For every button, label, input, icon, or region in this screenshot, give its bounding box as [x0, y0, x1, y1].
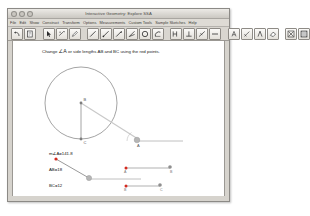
select-arrow-tool[interactable]: [43, 28, 55, 40]
window-titlebar[interactable]: Interactive Geometry: Explore SSA: [8, 9, 229, 19]
bc-slider-right-label: C: [160, 188, 163, 192]
perpendicular-icon: [172, 30, 180, 38]
menu-file[interactable]: File: [10, 20, 16, 26]
red-point-angle-handle[interactable]: [54, 157, 57, 160]
arc-tool[interactable]: [152, 28, 164, 40]
arc-icon: [154, 30, 162, 38]
bc-slider-right-handle[interactable]: [158, 183, 162, 187]
toolbar-group-draw: [86, 28, 165, 40]
desktop-background: Interactive Geometry: Explore SSA File E…: [0, 0, 237, 216]
marker-tool[interactable]: [69, 28, 81, 40]
arrow-pointer-icon: [45, 30, 53, 38]
menu-show[interactable]: Show: [29, 20, 39, 26]
menu-help[interactable]: Help: [189, 20, 197, 26]
point-C[interactable]: [80, 138, 83, 141]
menu-edit[interactable]: Edit: [19, 20, 26, 26]
midpoint-icon: [185, 30, 193, 38]
label-C: C: [84, 140, 87, 145]
ab-slider-left-label: A: [124, 170, 127, 174]
circle-icon: [141, 30, 149, 38]
geometry-figure[interactable]: B C A A B B C: [13, 41, 225, 197]
menu-measurements[interactable]: Measurements: [100, 20, 126, 26]
menu-bar: File Edit Show Construct Transform Optio…: [8, 19, 229, 27]
point-B[interactable]: [80, 102, 83, 105]
label-A: A: [137, 143, 140, 148]
distance-icon: [211, 30, 219, 38]
bc-measurement[interactable]: BC=12: [49, 183, 62, 188]
angle-lines-icon: [128, 30, 136, 38]
window-footer: [8, 196, 229, 201]
toolbar-group-history: [10, 28, 37, 40]
perpendicular-tool[interactable]: [170, 28, 182, 40]
menu-transform[interactable]: Transform: [62, 20, 80, 26]
ab-slider-right-label: B: [170, 170, 173, 174]
ab-measurement[interactable]: AB=18: [49, 167, 62, 172]
translate-tool[interactable]: [56, 28, 68, 40]
midpoint-tool[interactable]: [183, 28, 195, 40]
sketch-canvas[interactable]: Change ∠A or side lengths AB and BC usin…: [12, 40, 225, 197]
segment-B-to-A[interactable]: [81, 103, 138, 139]
toolbar-group-construct: [169, 28, 222, 40]
menu-construct[interactable]: Construct: [42, 20, 59, 26]
angle-a-measurement[interactable]: m∠A=141.8: [49, 151, 73, 156]
angle-measure-icon: [198, 30, 206, 38]
bc-slider-left-label: B: [124, 188, 127, 192]
toolbar-group-select: [41, 28, 81, 40]
undo-arrow-icon: [13, 30, 21, 38]
window-title: Interactive Geometry: Explore SSA: [8, 10, 229, 17]
vector-tool[interactable]: [113, 28, 125, 40]
undo-tool[interactable]: [11, 28, 23, 40]
menu-custom-tools[interactable]: Custom Tools: [128, 20, 152, 26]
line-segment-icon: [89, 30, 97, 38]
angle-vertex-point[interactable]: [86, 175, 91, 180]
translate-arrows-icon: [58, 30, 66, 38]
menu-sample-sketches[interactable]: Sample Sketches: [155, 20, 185, 26]
toolbar: [8, 27, 229, 41]
menu-options[interactable]: Options: [83, 20, 96, 26]
application-window: Interactive Geometry: Explore SSA File E…: [7, 8, 230, 202]
angle-measure-tool[interactable]: [196, 28, 208, 40]
ab-slider-right-handle[interactable]: [168, 165, 172, 169]
text-A-icon: [230, 30, 237, 38]
redo-tool[interactable]: [24, 28, 36, 40]
ray-icon: [102, 30, 110, 38]
vector-arrow-icon: [115, 30, 123, 38]
distance-tool[interactable]: [209, 28, 221, 40]
text-label-tool[interactable]: [228, 28, 237, 40]
toolbar-group-annotate: [227, 28, 238, 40]
label-B: B: [84, 97, 87, 102]
line-tool[interactable]: [87, 28, 99, 40]
point-A[interactable]: [134, 137, 140, 143]
polygon-tool[interactable]: [126, 28, 138, 40]
marker-pen-icon: [71, 30, 79, 38]
ray-tool[interactable]: [100, 28, 112, 40]
redo-page-icon: [26, 30, 34, 38]
circle-tool[interactable]: [139, 28, 151, 40]
